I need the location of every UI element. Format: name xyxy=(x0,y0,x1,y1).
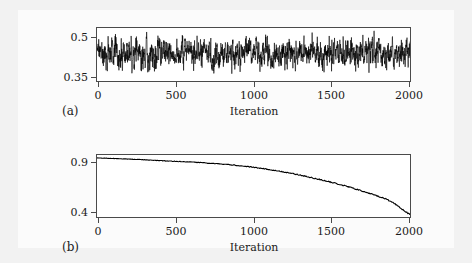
panel-a-xaxis-title: Iteration xyxy=(230,105,279,118)
panel-a: 0.5 0.35 0 500 1000 1500 2000 xyxy=(18,10,454,128)
panel-a-xtickmark-0 xyxy=(98,82,99,87)
panel-a-xtickmark-1000 xyxy=(254,82,255,87)
panel-b-xtickmark-0 xyxy=(98,218,99,223)
panel-b-xtick-0: 0 xyxy=(95,226,102,237)
panel-b-xtick-500: 500 xyxy=(166,226,187,237)
panel-b-xaxis-title: Iteration xyxy=(230,241,279,254)
panel-b-xtickmark-2000 xyxy=(409,218,410,223)
panel-b-curve-svg xyxy=(97,155,410,217)
panel-b-plot-frame xyxy=(96,154,411,218)
panel-a-xtick-0: 0 xyxy=(95,90,102,101)
panel-a-xtickmark-1500 xyxy=(331,82,332,87)
panel-a-xtick-2000: 2000 xyxy=(395,90,423,101)
panel-a-letter: (a) xyxy=(62,104,79,118)
panel-b-xtickmark-1500 xyxy=(331,218,332,223)
figure-container: 0.5 0.35 0 500 1000 1500 2000 xyxy=(0,0,472,263)
panel-b-xtickmark-1000 xyxy=(254,218,255,223)
panel-a-xtick-500: 500 xyxy=(166,90,187,101)
panel-b-letter: (b) xyxy=(62,240,79,254)
panel-a-ytick-0-35: 0.35 xyxy=(46,72,88,83)
panel-a-xtick-1500: 1500 xyxy=(317,90,345,101)
panel-a-xtick-1000: 1000 xyxy=(240,90,268,101)
panel-b-xtickmark-500 xyxy=(176,218,177,223)
panel-b: 0.9 0.4 0 500 1000 1500 2000 xyxy=(18,135,454,248)
panel-a-trace-svg xyxy=(97,28,410,81)
figure-inner-canvas: 0.5 0.35 0 500 1000 1500 2000 xyxy=(18,10,454,248)
panel-b-ytick-0-4: 0.4 xyxy=(46,207,88,218)
panel-b-ytick-0-9: 0.9 xyxy=(46,157,88,168)
panel-b-xtick-1500: 1500 xyxy=(317,226,345,237)
panel-b-xtick-1000: 1000 xyxy=(240,226,268,237)
panel-a-xtickmark-500 xyxy=(176,82,177,87)
panel-a-plot-frame xyxy=(96,27,411,82)
panel-a-ytick-0-5: 0.5 xyxy=(46,32,88,43)
panel-a-xtickmark-2000 xyxy=(409,82,410,87)
panel-b-xtick-2000: 2000 xyxy=(395,226,423,237)
